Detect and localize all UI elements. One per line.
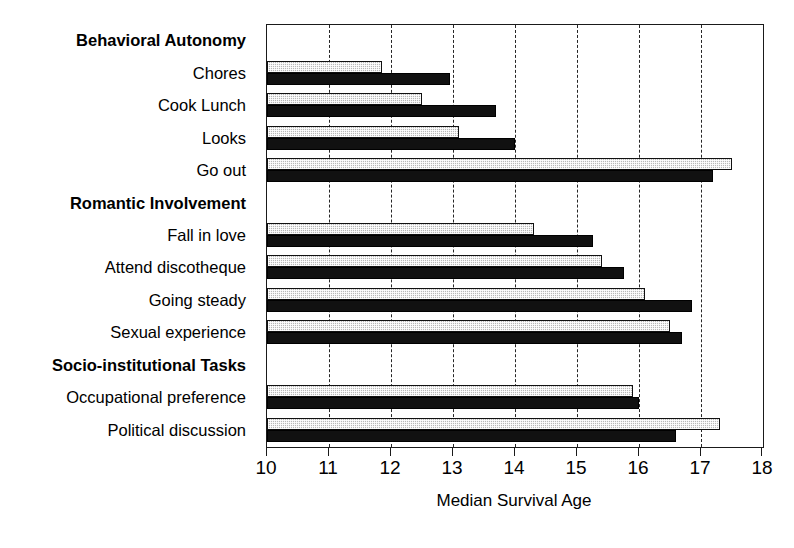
category-label: Behavioral Autonomy: [0, 32, 246, 49]
bar-males: [267, 73, 450, 85]
plot-area: Females Males: [266, 24, 764, 448]
bar-females: [267, 223, 534, 235]
bar-row: [267, 90, 763, 122]
x-tick-label: 18: [751, 458, 772, 477]
x-tick-label: 12: [379, 458, 400, 477]
category-label: Fall in love: [0, 227, 246, 244]
x-axis-tick-labels: 101112131415161718: [266, 458, 762, 482]
category-label: Go out: [0, 162, 246, 179]
bar-row: [267, 252, 763, 284]
bar-males: [267, 332, 682, 344]
category-label: Socio-institutional Tasks: [0, 357, 246, 374]
bar-females: [267, 158, 732, 170]
category-label: Romantic Involvement: [0, 195, 246, 212]
bar-females: [267, 93, 422, 105]
x-tick-10: [266, 447, 267, 456]
x-tick-label: 13: [441, 458, 462, 477]
bar-row: [267, 25, 763, 57]
bar-males: [267, 300, 692, 312]
bar-males: [267, 170, 713, 182]
bar-row: [267, 350, 763, 382]
x-tick-label: 14: [503, 458, 524, 477]
x-tick-label: 17: [689, 458, 710, 477]
bar-males: [267, 105, 496, 117]
bar-row: [267, 285, 763, 317]
bar-row: [267, 155, 763, 187]
bar-females: [267, 385, 633, 397]
x-tick-15: [576, 447, 577, 456]
median-survival-age-chart: Behavioral AutonomyChoresCook LunchLooks…: [0, 0, 794, 548]
bar-males: [267, 397, 639, 409]
category-label: Looks: [0, 130, 246, 147]
bar-row: [267, 187, 763, 219]
x-axis-line: [266, 447, 762, 457]
category-label: Cook Lunch: [0, 97, 246, 114]
x-tick-13: [452, 447, 453, 456]
x-tick-17: [700, 447, 701, 456]
bar-females: [267, 320, 670, 332]
bar-row: [267, 122, 763, 154]
x-tick-label: 10: [255, 458, 276, 477]
category-axis-labels: Behavioral AutonomyChoresCook LunchLooks…: [0, 24, 258, 446]
x-tick-14: [514, 447, 515, 456]
bar-females: [267, 126, 459, 138]
bar-males: [267, 430, 676, 442]
bar-males: [267, 267, 624, 279]
plot-inner: [267, 25, 763, 447]
x-tick-label: 15: [565, 458, 586, 477]
category-label: Attend discotheque: [0, 259, 246, 276]
bar-row: [267, 415, 763, 447]
category-label: Going steady: [0, 292, 246, 309]
category-label: Occupational preference: [0, 389, 246, 406]
category-label: Chores: [0, 65, 246, 82]
x-tick-label: 16: [627, 458, 648, 477]
category-label: Sexual experience: [0, 324, 246, 341]
x-tick-18: [761, 447, 762, 456]
bar-row: [267, 382, 763, 414]
category-label: Political discussion: [0, 422, 246, 439]
x-tick-label: 11: [318, 458, 338, 477]
x-axis-title: Median Survival Age: [266, 492, 762, 509]
bar-males: [267, 138, 515, 150]
bar-females: [267, 418, 720, 430]
bar-row: [267, 57, 763, 89]
bar-females: [267, 61, 382, 73]
bar-females: [267, 288, 645, 300]
bar-males: [267, 235, 593, 247]
x-tick-11: [328, 447, 329, 456]
bar-row: [267, 220, 763, 252]
x-tick-12: [390, 447, 391, 456]
bar-females: [267, 255, 602, 267]
x-tick-16: [638, 447, 639, 456]
bar-row: [267, 317, 763, 349]
